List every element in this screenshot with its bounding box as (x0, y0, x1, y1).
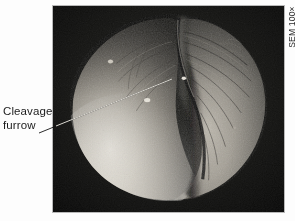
callout-label-line-1: Cleavage (3, 105, 51, 119)
callout-label: Cleavage furrow (3, 105, 51, 132)
magnification-value: SEM 100× (287, 6, 295, 48)
callout-label-line-2: furrow (3, 119, 51, 133)
micrograph-photo (52, 5, 285, 213)
magnification-label: SEM 100× (286, 4, 295, 50)
figure-root: Cleavage furrow SEM 100× (0, 0, 295, 221)
micrograph-image (53, 6, 284, 212)
